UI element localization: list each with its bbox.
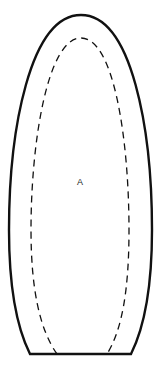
diagram-canvas: A — [0, 0, 165, 373]
region-label: A — [77, 177, 83, 187]
inner-outline — [31, 38, 129, 354]
